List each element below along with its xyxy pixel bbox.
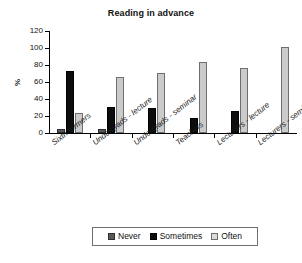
y-tick-label: 40	[21, 95, 43, 103]
y-tick-label: 120	[21, 27, 43, 35]
legend-label: Never	[118, 232, 141, 241]
x-tick	[132, 134, 133, 138]
legend-item[interactable]: Sometimes	[150, 232, 203, 241]
y-tick-label-wrap: 100	[19, 44, 43, 52]
y-tick-label-wrap: 80	[19, 61, 43, 69]
y-tick-label-wrap: 40	[19, 95, 43, 103]
y-tick-label: 80	[21, 61, 43, 69]
y-tick-label-wrap: 0	[19, 129, 43, 137]
chart-legend: NeverSometimesOften	[92, 227, 258, 246]
legend-label: Often	[221, 232, 242, 241]
legend-item[interactable]: Often	[211, 232, 242, 241]
y-tick	[45, 133, 49, 134]
y-tick-label: 100	[21, 44, 43, 52]
legend-swatch-icon	[211, 233, 218, 240]
y-tick-label-wrap: 60	[19, 78, 43, 86]
y-tick-label: 20	[21, 112, 43, 120]
x-tick	[173, 134, 174, 138]
x-tick	[214, 134, 215, 138]
y-tick-label: 60	[21, 78, 43, 86]
legend-swatch-icon	[108, 233, 115, 240]
y-tick-label-wrap: 120	[19, 27, 43, 35]
legend-label: Sometimes	[160, 232, 203, 241]
x-tick	[90, 134, 91, 138]
y-tick-label: 0	[21, 129, 43, 137]
y-tick-label-wrap: 20	[19, 112, 43, 120]
legend-swatch-icon	[150, 233, 157, 240]
chart-title: Reading in advance	[0, 8, 302, 18]
x-tick	[256, 134, 257, 138]
bar-chart: Reading in advance % 020406080100120 Six…	[0, 0, 302, 263]
legend-item[interactable]: Never	[108, 232, 141, 241]
